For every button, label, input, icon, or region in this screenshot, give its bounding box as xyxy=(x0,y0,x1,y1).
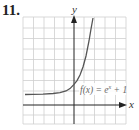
y-axis-label: y xyxy=(71,3,77,15)
curve-label: f(x) = ex + 1 xyxy=(80,84,127,96)
x-axis-label: x xyxy=(128,98,134,110)
exponential-graph: f(x) = ex + 1 y x xyxy=(0,0,139,130)
y-axis-arrow-icon xyxy=(71,15,77,23)
axes xyxy=(23,19,124,124)
